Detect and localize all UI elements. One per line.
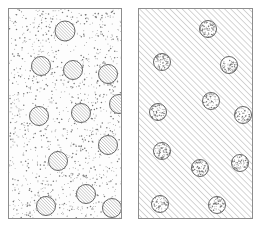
panel-left [8, 8, 122, 219]
figure-root [0, 0, 263, 231]
panel-left-texture [8, 8, 122, 219]
panel-right [138, 8, 253, 219]
panel-right-texture [138, 8, 253, 219]
